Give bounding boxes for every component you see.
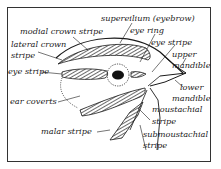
label-medial-crown-stripe: modial crown stripe: [20, 27, 103, 36]
malar-stripe-shape: [110, 102, 143, 140]
eye: [112, 71, 124, 80]
label-moustachial-stripe-line2: stripe: [152, 117, 176, 126]
label-eye-ring: eye ring: [130, 26, 164, 35]
label-lateral-crown-stripe-line1: lateral crown: [11, 40, 66, 49]
ear-coverts-boundary: [61, 78, 78, 108]
label-moustachial-stripe-line1: moustachial: [152, 105, 202, 114]
label-eye-stripe-left: eye stripe: [8, 67, 49, 76]
label-malar-stripe: malar stripe: [41, 127, 92, 136]
label-submoustachial-stripe-line1: submoustachial: [143, 130, 208, 139]
label-eye-stripe-right: eye stripe: [151, 38, 192, 47]
label-lower-mandible-line1: lower: [180, 83, 203, 92]
label-lower-mandible-line2: mandible: [172, 94, 210, 103]
label-supercilium: supereilium (eyebrow): [101, 14, 195, 23]
label-upper-mandible-line1: upper: [172, 50, 197, 59]
eye-stripe-left-shape: [62, 69, 108, 80]
label-upper-mandible-line2: mandible: [172, 61, 210, 70]
eye-stripe-right-shape: [131, 72, 146, 78]
label-ear-coverts: ear coverts: [10, 97, 57, 106]
label-submoustachial-stripe-line2: stripe: [143, 141, 167, 150]
label-lateral-crown-stripe-line2: stripe: [11, 51, 35, 60]
